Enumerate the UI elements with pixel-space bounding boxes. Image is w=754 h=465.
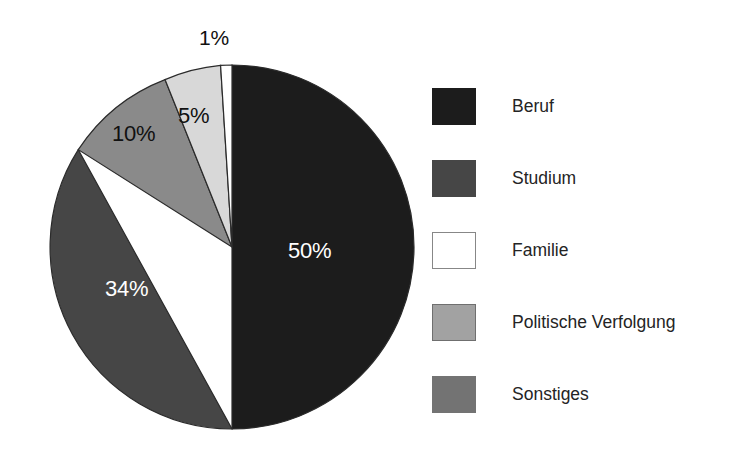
legend-item-studium[interactable]: Studium (432, 160, 732, 197)
chart-legend: Beruf Studium Familie Politische Verfolg… (432, 88, 732, 413)
pie-label-beruf: 50% (288, 240, 331, 262)
pie-label-politische-verfolgung: 5% (178, 105, 209, 127)
legend-label-beruf: Beruf (512, 98, 554, 116)
legend-label-politische-verfolgung: Politische Verfolgung (512, 314, 675, 332)
legend-swatch-familie (432, 232, 476, 269)
legend-item-politische-verfolgung[interactable]: Politische Verfolgung (432, 304, 732, 341)
pie-label-familie: 1% (199, 27, 229, 48)
legend-item-familie[interactable]: Familie (432, 232, 732, 269)
pie-label-studium: 34% (105, 278, 148, 300)
pie-plot-area: 50% 34% 10% 5% 1% (0, 0, 430, 465)
pie-chart-figure: 50% 34% 10% 5% 1% Beruf Studium Familie … (0, 0, 754, 465)
legend-item-beruf[interactable]: Beruf (432, 88, 732, 125)
legend-item-sonstiges[interactable]: Sonstiges (432, 376, 732, 413)
legend-swatch-studium (432, 160, 476, 197)
legend-label-familie: Familie (512, 242, 568, 260)
pie-svg (0, 0, 430, 465)
legend-label-studium: Studium (512, 170, 576, 188)
legend-swatch-beruf (432, 88, 476, 125)
legend-label-sonstiges: Sonstiges (512, 386, 589, 404)
pie-label-sonstiges: 10% (112, 123, 155, 145)
legend-swatch-politische-verfolgung (432, 304, 476, 341)
legend-swatch-sonstiges (432, 376, 476, 413)
